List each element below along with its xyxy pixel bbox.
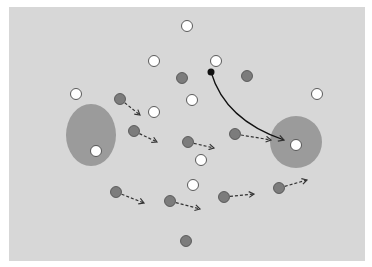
defender-marker bbox=[219, 192, 230, 203]
ball-icon bbox=[208, 69, 215, 76]
attacker-marker bbox=[196, 155, 207, 166]
attacker-marker bbox=[188, 180, 199, 191]
defender-marker bbox=[177, 73, 188, 84]
attacker-marker bbox=[71, 89, 82, 100]
defender-marker bbox=[242, 71, 253, 82]
play-diagram bbox=[0, 0, 372, 267]
defender-marker bbox=[183, 137, 194, 148]
attacker-marker bbox=[187, 95, 198, 106]
defender-marker bbox=[230, 129, 241, 140]
target-zone bbox=[66, 104, 116, 166]
defender-marker bbox=[274, 183, 285, 194]
attacker-marker bbox=[149, 107, 160, 118]
defender-marker bbox=[115, 94, 126, 105]
defender-marker bbox=[111, 187, 122, 198]
attacker-marker bbox=[211, 56, 222, 67]
attacker-marker bbox=[312, 89, 323, 100]
defender-marker bbox=[129, 126, 140, 137]
attacker-marker bbox=[291, 140, 302, 151]
attacker-marker bbox=[182, 21, 193, 32]
attacker-marker bbox=[91, 146, 102, 157]
defender-marker bbox=[165, 196, 176, 207]
attacker-marker bbox=[149, 56, 160, 67]
defender-marker bbox=[181, 236, 192, 247]
ball bbox=[208, 69, 215, 76]
